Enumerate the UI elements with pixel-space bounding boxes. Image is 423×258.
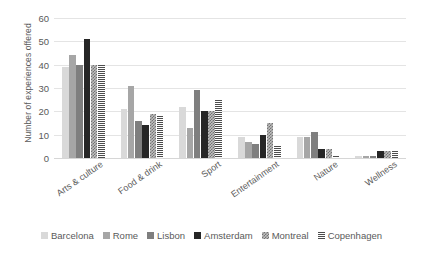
- legend-swatch-icon: [318, 232, 325, 239]
- bar-group: [113, 18, 172, 158]
- bars: [238, 18, 281, 158]
- bar: [215, 100, 222, 158]
- bar: [76, 65, 83, 158]
- x-axis-label: Food & drink: [116, 159, 164, 196]
- legend-swatch-icon: [103, 232, 110, 239]
- bar-group: [230, 18, 289, 158]
- legend-label: Copenhagen: [328, 230, 382, 241]
- bar-group: [347, 18, 406, 158]
- legend-swatch-icon: [147, 232, 154, 239]
- bar: [84, 39, 91, 158]
- bar-chart: Number of experiences offered 0102030405…: [0, 0, 423, 258]
- legend-label: Lisbon: [157, 230, 185, 241]
- x-axis-label: Arts & culture: [55, 159, 105, 198]
- bar: [121, 109, 128, 158]
- legend-item-amsterdam[interactable]: Amsterdam: [194, 230, 253, 241]
- legend-item-barcelona[interactable]: Barcelona: [41, 230, 94, 241]
- x-axis-label: Entertainment: [229, 159, 281, 199]
- bar: [260, 135, 267, 158]
- legend-swatch-icon: [194, 232, 201, 239]
- bar: [201, 111, 208, 158]
- bar: [179, 107, 186, 158]
- bars: [355, 18, 398, 158]
- legend-item-montreal[interactable]: Montreal: [262, 230, 309, 241]
- bar: [333, 156, 340, 158]
- legend-label: Amsterdam: [204, 230, 253, 241]
- bar: [238, 137, 245, 158]
- plot-area: 0102030405060: [54, 18, 406, 158]
- y-tick-30: 30: [38, 83, 49, 94]
- bars: [120, 18, 163, 158]
- bar: [363, 156, 370, 158]
- legend-item-rome[interactable]: Rome: [103, 230, 138, 241]
- y-tick-40: 40: [38, 59, 49, 70]
- bar: [157, 116, 164, 158]
- legend-swatch-icon: [262, 232, 269, 239]
- bar: [62, 67, 69, 158]
- bar: [297, 137, 304, 158]
- chart-legend: BarcelonaRomeLisbonAmsterdamMontrealCope…: [0, 230, 423, 241]
- y-tick-50: 50: [38, 36, 49, 47]
- bar-group: [54, 18, 113, 158]
- bar: [384, 151, 391, 158]
- bar: [252, 144, 259, 158]
- y-tick-60: 60: [38, 13, 49, 24]
- bar-group: [171, 18, 230, 158]
- bars: [296, 18, 339, 158]
- bar: [304, 137, 311, 158]
- bar-group: [289, 18, 348, 158]
- bar: [187, 128, 194, 158]
- bar: [150, 114, 157, 158]
- bar: [208, 111, 215, 158]
- legend-item-lisbon[interactable]: Lisbon: [147, 230, 185, 241]
- legend-label: Rome: [113, 230, 138, 241]
- bar: [377, 151, 384, 158]
- bar: [128, 86, 135, 158]
- x-axis-tick-labels: Arts & cultureFood & drinkSportEntertain…: [54, 159, 406, 219]
- bar: [311, 132, 318, 158]
- bar: [392, 151, 399, 158]
- bar-groups: [54, 18, 406, 158]
- bars: [179, 18, 222, 158]
- bar: [142, 125, 149, 158]
- bar: [245, 142, 252, 158]
- bar: [370, 156, 377, 158]
- bars: [62, 18, 105, 158]
- bar: [98, 65, 105, 158]
- y-tick-20: 20: [38, 106, 49, 117]
- bar: [355, 156, 362, 158]
- y-tick-10: 10: [38, 129, 49, 140]
- bar: [194, 90, 201, 158]
- legend-item-copenhagen[interactable]: Copenhagen: [318, 230, 382, 241]
- bar: [274, 146, 281, 158]
- bar: [135, 121, 142, 158]
- legend-label: Montreal: [272, 230, 309, 241]
- legend-swatch-icon: [41, 232, 48, 239]
- y-axis-title: Number of experiences offered: [23, 3, 33, 163]
- x-axis-label: Nature: [312, 159, 340, 183]
- bar: [318, 149, 325, 158]
- y-tick-0: 0: [44, 153, 49, 164]
- bar: [326, 149, 333, 158]
- x-axis-label: Wellness: [363, 159, 399, 188]
- bar: [267, 123, 274, 158]
- x-axis-label: Sport: [199, 159, 222, 180]
- legend-label: Barcelona: [51, 230, 94, 241]
- bar: [91, 65, 98, 158]
- bar: [69, 55, 76, 158]
